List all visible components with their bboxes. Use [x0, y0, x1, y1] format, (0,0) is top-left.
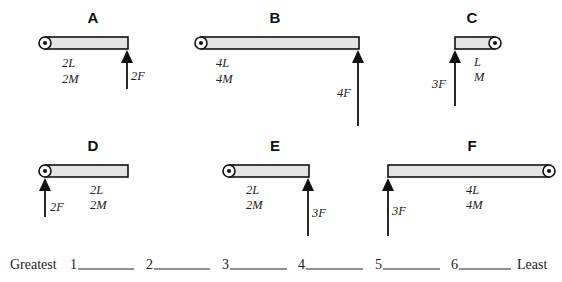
rod: [229, 165, 309, 177]
ranking-row: Greatest 1 2 3 4 5 6: [10, 257, 547, 272]
diagram-e: E 2L 2M 3F: [223, 137, 326, 236]
diagram-a: A 2L 2M 2F: [39, 9, 145, 89]
force-label: 2F: [131, 69, 145, 83]
length-label: 2L: [62, 56, 75, 70]
length-label: 4L: [466, 183, 479, 197]
force-label: 2F: [50, 200, 64, 214]
pivot-icon: [39, 165, 51, 177]
slot-number: 2: [146, 257, 153, 272]
pivot-icon: [489, 37, 501, 49]
mass-label: 2M: [90, 198, 107, 212]
pivot-icon: [543, 165, 555, 177]
mass-label: 4M: [216, 72, 233, 86]
ranking-slot-6[interactable]: 6: [451, 257, 511, 272]
diagram-title: F: [467, 137, 476, 154]
diagram-title: A: [88, 9, 99, 26]
mass-label: 4M: [466, 198, 483, 212]
ranking-slot-5[interactable]: 5: [375, 257, 440, 272]
force-label: 4F: [337, 86, 351, 100]
diagram-d: D 2L 2M 2F: [39, 137, 128, 217]
diagram-title: E: [270, 137, 280, 154]
force-arrow-icon: [449, 50, 461, 106]
rod: [45, 165, 128, 177]
greatest-label: Greatest: [10, 257, 57, 272]
mass-label: M: [473, 70, 485, 84]
length-label: 2L: [90, 183, 103, 197]
rod: [388, 165, 549, 177]
slot-number: 6: [451, 257, 458, 272]
mass-label: 2M: [246, 198, 263, 212]
rod: [45, 37, 128, 49]
diagram-title: C: [467, 9, 478, 26]
force-arrow-icon: [352, 50, 364, 126]
slot-number: 3: [222, 257, 229, 272]
diagram-b: B 4L 4M 4F: [195, 9, 364, 126]
diagram-f: F 4L 4M 3F: [382, 137, 555, 236]
diagram-title: B: [270, 9, 281, 26]
slot-number: 4: [298, 257, 305, 272]
length-label: 2L: [246, 183, 259, 197]
pivot-icon: [223, 165, 235, 177]
least-label: Least: [517, 257, 547, 272]
force-label: 3F: [391, 204, 406, 218]
force-label: 3F: [311, 206, 326, 220]
diagram-title: D: [88, 137, 99, 154]
rod: [201, 37, 359, 49]
pivot-icon: [39, 37, 51, 49]
slot-number: 1: [70, 257, 77, 272]
force-label: 3F: [431, 77, 446, 91]
length-label: 4L: [216, 56, 229, 70]
slot-number: 5: [375, 257, 382, 272]
diagram-c: C L M 3F: [431, 9, 501, 106]
ranking-slot-2[interactable]: 2: [146, 257, 210, 272]
ranking-slot-4[interactable]: 4: [298, 257, 363, 272]
length-label: L: [473, 55, 481, 69]
ranking-slot-1[interactable]: 1: [70, 257, 134, 272]
ranking-slot-3[interactable]: 3: [222, 257, 287, 272]
mass-label: 2M: [62, 72, 79, 86]
pivot-icon: [195, 37, 207, 49]
rod-torque-ranking-diagram: A 2L 2M 2F B 4L 4M 4F C: [0, 0, 562, 282]
